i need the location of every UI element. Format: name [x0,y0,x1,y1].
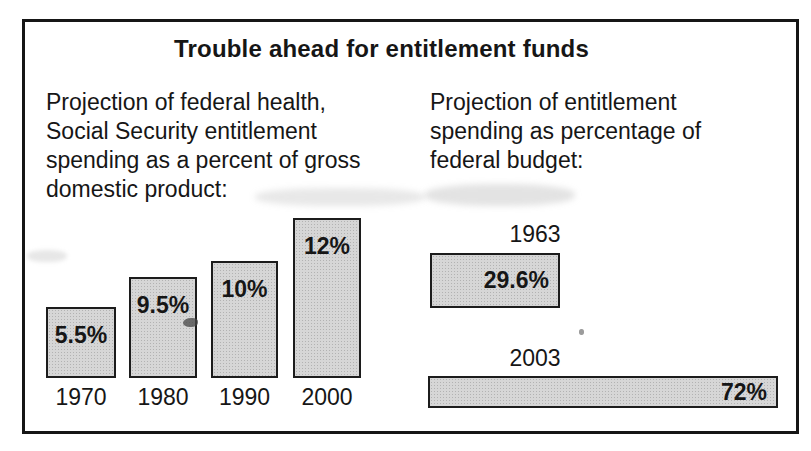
caption-line: spending as percentage of [430,117,770,146]
budget-chart-caption: Projection of entitlement spending as pe… [430,88,770,175]
caption-line: domestic product: [46,175,386,204]
scan-smudge [27,250,67,262]
figure-frame: Trouble ahead for entitlement funds Proj… [22,19,799,434]
axis-label-2000: 2000 [293,383,361,411]
scan-smudge [425,184,575,206]
bar-value-label: 72% [721,379,767,406]
bar-1963: 29.6% [430,253,560,308]
bar-1990: 10% [211,261,278,378]
scanned-figure: Trouble ahead for entitlement funds Proj… [0,0,811,451]
axis-label-1990: 1990 [211,383,278,411]
bar-2003: 72% [428,376,778,408]
scan-smudge [579,329,584,335]
caption-line: Projection of entitlement [430,88,770,117]
bar-value-label: 9.5% [131,292,195,319]
gdp-chart-caption: Projection of federal health, Social Sec… [46,88,386,204]
bar-1970: 5.5% [46,307,116,378]
bar-value-label: 12% [295,233,359,260]
axis-label-1970: 1970 [46,383,116,411]
bar-value-label: 29.6% [484,267,549,294]
bar-value-label: 10% [213,276,276,303]
bar-2000: 12% [293,218,361,378]
bar-1980: 9.5% [129,277,197,378]
caption-line: Social Security entitlement [46,117,386,146]
caption-line: spending as a percent of gross [46,146,386,175]
caption-line: Projection of federal health, [46,88,386,117]
bar-value-label: 5.5% [48,322,114,349]
axis-label-1963: 1963 [470,220,600,248]
caption-line: federal budget: [430,146,770,175]
axis-label-2003: 2003 [470,344,600,372]
figure-title: Trouble ahead for entitlement funds [25,35,738,63]
axis-label-1980: 1980 [129,383,197,411]
